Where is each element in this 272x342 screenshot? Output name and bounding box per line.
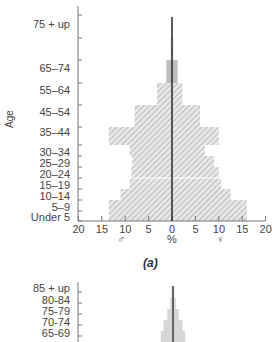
male-bar <box>130 178 172 189</box>
female-bar <box>172 178 221 189</box>
female-bar <box>172 127 219 145</box>
male-bar <box>132 156 172 167</box>
female-bar <box>172 105 200 127</box>
male-symbol: ♂ <box>117 233 125 245</box>
female-bar <box>172 211 247 221</box>
male-bar <box>130 145 172 156</box>
male-bar <box>109 200 172 211</box>
male-bar <box>135 105 172 127</box>
male-bar <box>121 189 172 200</box>
male-bar <box>157 83 172 105</box>
percent-label: % <box>167 233 177 245</box>
male-bar <box>109 127 172 145</box>
female-bar <box>172 145 205 156</box>
female-bar <box>172 200 247 211</box>
x-tick-label: 15 <box>96 223 108 235</box>
female-bar <box>172 167 219 178</box>
x-tick-label: 20 <box>72 223 84 235</box>
x-tick-label: 20 <box>260 223 272 235</box>
female-bar <box>172 189 231 200</box>
age-category-label-b: 65-69 <box>0 327 70 339</box>
x-tick-label: 5 <box>192 223 198 235</box>
age-category-label-b: 85 + up <box>0 282 70 294</box>
female-bar <box>172 83 182 105</box>
x-tick-label: 15 <box>236 223 248 235</box>
x-tick-label: 5 <box>146 223 152 235</box>
male-bar <box>109 211 172 221</box>
chart-caption: (a) <box>143 256 158 270</box>
female-bar <box>172 60 178 83</box>
male-bar <box>166 60 172 83</box>
male-bar <box>131 167 172 178</box>
female-bar <box>172 156 214 167</box>
female-symbol: ♀ <box>216 233 224 245</box>
